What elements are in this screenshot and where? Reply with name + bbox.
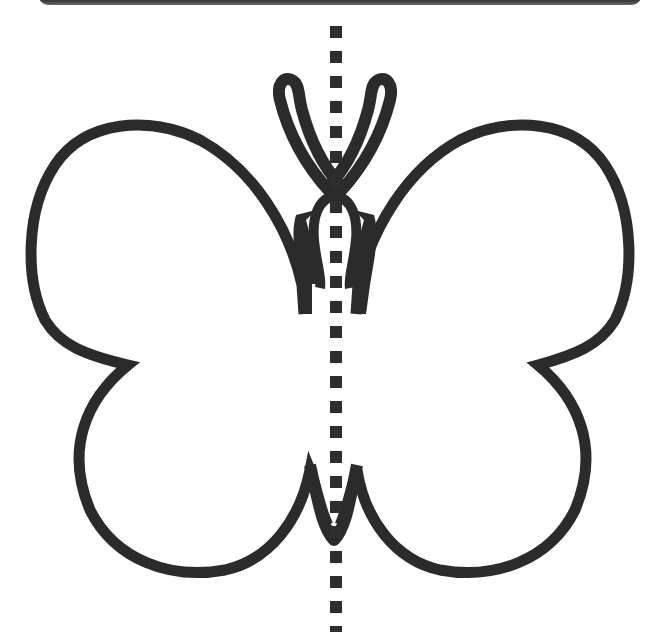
right-wing-outline [340,125,629,572]
left-wing-outline [31,125,328,572]
butterfly-figure [0,0,666,632]
